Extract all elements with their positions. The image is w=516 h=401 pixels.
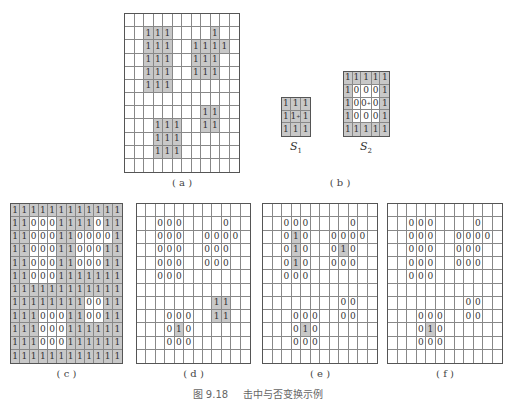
grid-cell [144,146,154,159]
grid-cell [417,204,427,217]
grid-cell [493,217,503,230]
grid-cell [388,297,398,310]
grid-cell: 1 [11,350,20,363]
grid-cell [212,284,221,297]
grid-cell [184,217,193,230]
grid-cell [493,337,503,350]
grid-cell: 0 [426,217,436,230]
grid-cell [398,231,408,244]
grid-cell: 0 [474,310,484,323]
grid-cell [388,244,398,257]
grid-cell [320,204,330,217]
grid-cell [263,204,273,217]
grid-cell [156,337,165,350]
grid-cell: 0 [30,270,39,283]
grid-cell: 0 [282,257,292,270]
grid-cell [173,27,183,40]
grid-cell [163,14,173,27]
grid-cell [455,350,465,363]
grid-cell [146,231,155,244]
panel-label-e: ( e ) [262,368,378,379]
grid-cell [436,231,446,244]
grid-cell [184,350,193,363]
grid-cell [230,133,240,146]
grid-cell: 0 [165,323,174,336]
grid-cell [231,297,240,310]
grid-cell [445,217,455,230]
grid-cell [330,297,340,310]
grid-cell [483,350,493,363]
grid-cell [231,323,240,336]
grid-cell: 0 [426,337,436,350]
grid-cell: 1 [292,257,302,270]
grid-cell: 1 [154,146,164,159]
grid-cell [358,217,368,230]
grid-cell: 0 [353,110,362,123]
grid-cell [182,119,192,132]
grid-cell [311,270,321,283]
grid-cell [165,297,174,310]
grid-cell: 1 [173,146,183,159]
grid-cell [211,146,221,159]
grid-cell [407,337,417,350]
grid-cell [368,204,378,217]
grid-cell [407,310,417,323]
grid-cell [154,159,164,172]
grid-cell: 1 [113,337,122,350]
grid-cell [282,350,292,363]
grid-cell [212,323,221,336]
grid-cell: 1 [104,297,113,310]
grid-cell: 0 [85,244,94,257]
s1-label: S1 [290,140,302,155]
grid-cell [263,244,273,257]
grid-cell: 1 [104,350,113,363]
grid-cell [282,337,292,350]
grid-cell: 1 [144,40,154,53]
grid-cell: 0 [76,257,85,270]
grid-cell [184,231,193,244]
grid-cell [194,204,203,217]
grid-cell [493,257,503,270]
grid-cell [192,93,202,106]
grid-cell [349,204,359,217]
grid-cell [339,284,349,297]
grid-cell [222,350,231,363]
grid-cell [192,27,202,40]
grid-cell: 0 [372,98,381,111]
grid-cell [445,244,455,257]
grid-cell [474,323,484,336]
grid-cell [493,270,503,283]
grid-cell: 1 [372,72,381,85]
grid-cell [192,106,202,119]
grid-cell [273,217,283,230]
grid-cell: 0+ [361,98,372,111]
grid-cell [407,297,417,310]
grid-cell: 1 [163,119,173,132]
grid-cell: 1 [20,323,29,336]
grid-cell: 0 [85,231,94,244]
grid-cell [464,350,474,363]
grid-cell [241,310,250,323]
grid-cell: 1 [76,350,85,363]
grid-cell: 0 [292,270,302,283]
grid-cell: 1 [57,217,66,230]
grid-cell: 0 [417,244,427,257]
grid-cell [263,297,273,310]
grid-cell [231,350,240,363]
grid-cell: 1 [11,257,20,270]
grid-cell [464,217,474,230]
grid-cell [330,284,340,297]
grid-cell [135,40,145,53]
grid-cell: 0 [94,297,103,310]
grid-cell: 0 [292,217,302,230]
grid-cell [483,244,493,257]
grid-cell: 1 [20,297,29,310]
grid-cell [125,67,135,80]
grid-cell [192,146,202,159]
grid-cell: 0 [292,310,302,323]
grid-cell: 1 [361,123,372,136]
grid-cell [203,350,212,363]
grid-cell: 0 [39,310,48,323]
panel-label-b: ( b ) [290,177,390,188]
figure-caption: 图 9.18 击中与否变换示例 [0,386,516,401]
